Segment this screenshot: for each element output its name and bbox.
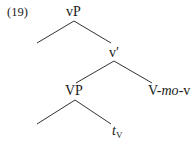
head-morpheme: mo <box>162 83 179 98</box>
node-head-V-mo-v: V-mo-v <box>148 84 190 98</box>
node-vP: vP <box>66 5 81 19</box>
node-trace: tV <box>112 124 122 139</box>
trace-subscript: V <box>116 130 123 140</box>
node-v-bar: v′ <box>109 46 119 60</box>
branch-vp-left <box>37 21 74 43</box>
head-prefix: V- <box>148 83 162 98</box>
branch-VP-right <box>75 100 111 124</box>
head-suffix: -v <box>179 83 191 98</box>
branch-vbar-left <box>76 61 114 83</box>
example-number: (19) <box>7 5 28 19</box>
branch-vbar-right <box>114 61 152 83</box>
tree-branches <box>0 0 193 146</box>
branch-VP-left <box>37 100 75 124</box>
node-VP: VP <box>65 84 83 98</box>
branch-vp-right <box>74 21 111 43</box>
